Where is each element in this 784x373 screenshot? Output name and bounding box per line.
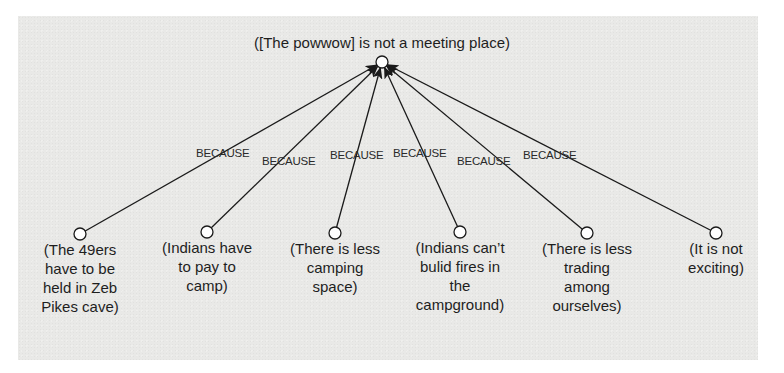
child-reason-line: space) <box>275 277 395 296</box>
child-node-circle-3[interactable] <box>329 227 341 239</box>
child-node-circle-4[interactable] <box>454 226 466 238</box>
child-reason-line: among <box>527 277 647 296</box>
child-reason-line: (It is not <box>656 239 776 258</box>
because-label-5: BECAUSE <box>457 155 511 167</box>
because-label-2: BECAUSE <box>262 155 316 167</box>
child-reason-6: (It is notexciting) <box>656 239 776 277</box>
because-label-1: BECAUSE <box>196 147 250 159</box>
child-reason-line: (Indians have <box>147 238 267 257</box>
child-reason-1: (The 49ershave to beheld in ZebPikes cav… <box>20 240 140 316</box>
child-reason-line: (Indians can’t <box>400 238 520 257</box>
child-node-circle-2[interactable] <box>201 226 213 238</box>
child-reason-3: (There is lesscampingspace) <box>275 239 395 296</box>
diagram-edges <box>0 0 784 373</box>
child-reason-line: have to be <box>20 259 140 278</box>
child-reason-line: campground) <box>400 295 520 314</box>
because-label-4: BECAUSE <box>393 147 447 159</box>
because-label-3: BECAUSE <box>330 149 384 161</box>
child-node-circle-5[interactable] <box>581 227 593 239</box>
child-reason-line: held in Zeb <box>20 278 140 297</box>
child-reason-line: to pay to <box>147 257 267 276</box>
child-reason-line: exciting) <box>656 258 776 277</box>
child-reason-line: trading <box>527 258 647 277</box>
child-node-circle-6[interactable] <box>710 227 722 239</box>
child-reason-line: (The 49ers <box>20 240 140 259</box>
child-reason-line: camp) <box>147 276 267 295</box>
root-claim-label: ([The powwow] is not a meeting place) <box>232 34 532 51</box>
child-reason-line: camping <box>275 258 395 277</box>
child-reason-line: (There is less <box>527 239 647 258</box>
child-reason-line: the <box>400 276 520 295</box>
because-label-6: BECAUSE <box>523 149 577 161</box>
child-reason-line: ourselves) <box>527 296 647 315</box>
child-reason-5: (There is lesstradingamongourselves) <box>527 239 647 315</box>
because-edge-3 <box>337 68 381 227</box>
child-reason-line: (There is less <box>275 239 395 258</box>
child-reason-2: (Indians haveto pay tocamp) <box>147 238 267 295</box>
child-reason-line: Pikes cave) <box>20 297 140 316</box>
child-node-circle-1[interactable] <box>74 228 86 240</box>
child-reason-4: (Indians can’tbulid fires inthecampgroun… <box>400 238 520 314</box>
child-reason-line: bulid fires in <box>400 257 520 276</box>
root-node-circle[interactable] <box>376 56 388 68</box>
